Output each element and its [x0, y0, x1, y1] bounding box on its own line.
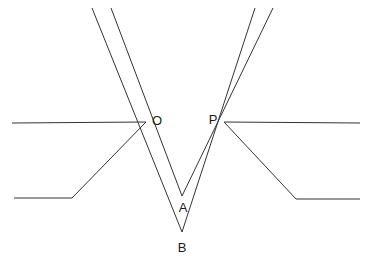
diagram-canvas: O P A B — [0, 0, 370, 263]
vertex-label-a: A — [179, 200, 188, 215]
vertex-label-p: P — [209, 112, 218, 127]
vertex-label-o: O — [152, 113, 162, 128]
vertex-label-b: B — [178, 240, 187, 255]
geometry-figure: O P A B — [0, 0, 370, 263]
